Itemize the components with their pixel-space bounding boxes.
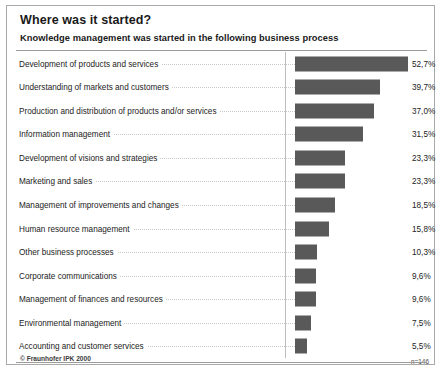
category-label: Production and distribution of products … [19, 106, 220, 115]
value-label: 9,6% [412, 295, 431, 304]
category-label: Environmental management [19, 318, 124, 327]
bar [295, 197, 335, 212]
value-label: 23,3% [412, 177, 435, 186]
bar-row: Marketing and sales23,3% [16, 170, 427, 194]
category-label: Other business processes [19, 248, 117, 257]
bar [295, 56, 408, 71]
bar [295, 339, 307, 354]
value-label: 52,7% [412, 59, 435, 68]
bar [295, 80, 380, 95]
category-label: Development of products and services [19, 59, 161, 68]
value-label: 7,5% [412, 318, 431, 327]
bar-row: Production and distribution of products … [16, 99, 427, 123]
value-label: 5,5% [412, 342, 431, 351]
bar [295, 292, 316, 307]
category-label: Accounting and customer services [19, 342, 147, 351]
bar-row: Development of products and services52,7… [16, 52, 427, 76]
header-divider [16, 50, 427, 51]
category-label: Information management [19, 130, 113, 139]
bar-row: Management of improvements and changes18… [16, 193, 427, 217]
bar [295, 103, 374, 118]
category-label: Understanding of markets and customers [19, 83, 172, 92]
bar [295, 127, 363, 142]
bar [295, 221, 329, 236]
category-label: Human resource management [19, 224, 133, 233]
bar-row: Development of visions and strategies23,… [16, 146, 427, 170]
copyright-notice: © Fraunhofer IPK 2000 [20, 355, 91, 362]
chart-frame: Where was it started? Knowledge manageme… [6, 5, 435, 365]
value-label: 18,5% [412, 200, 435, 209]
value-label: 37,0% [412, 106, 435, 115]
category-label: Management of finances and resources [19, 295, 166, 304]
category-label: Corporate communications [19, 271, 120, 280]
value-label: 39,7% [412, 83, 435, 92]
category-label: Development of visions and strategies [19, 153, 160, 162]
bar-row: Information management31,5% [16, 123, 427, 147]
bar [295, 150, 345, 165]
bar-row: Environmental management7,5% [16, 311, 427, 335]
category-label: Management of improvements and changes [19, 200, 182, 209]
page-title: Where was it started? [20, 13, 151, 27]
chart-subtitle: Knowledge management was started in the … [20, 33, 338, 43]
value-label: 9,6% [412, 271, 431, 280]
value-label: 15,8% [412, 224, 435, 233]
bar [295, 268, 316, 283]
bar [295, 315, 311, 330]
value-label: 10,3% [412, 248, 435, 257]
footer-divider [16, 362, 427, 363]
value-label: 31,5% [412, 130, 435, 139]
category-label: Marketing and sales [19, 177, 95, 186]
bar [295, 245, 317, 260]
bar-row: Human resource management15,8% [16, 217, 427, 241]
bar-row: Understanding of markets and customers39… [16, 76, 427, 100]
bar-chart-plot: Development of products and services52,7… [16, 52, 427, 358]
bar-row: Corporate communications9,6% [16, 264, 427, 288]
bar [295, 174, 345, 189]
value-label: 23,3% [412, 153, 435, 162]
bar-row: Other business processes10,3% [16, 240, 427, 264]
bar-row: Management of finances and resources9,6% [16, 287, 427, 311]
